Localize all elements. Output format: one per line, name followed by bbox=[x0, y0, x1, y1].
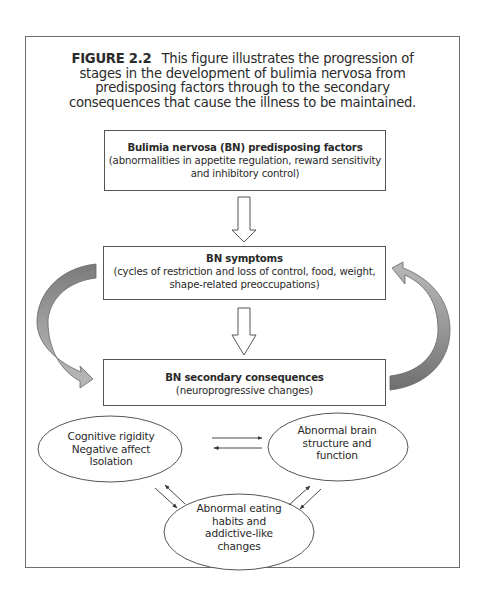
curved-arrow-right bbox=[390, 262, 450, 390]
ellipse-line: habits and bbox=[175, 515, 303, 528]
box-title: Bulimia nervosa (BN) predisposing factor… bbox=[105, 141, 385, 154]
down-arrow-2 bbox=[232, 308, 256, 355]
box-detail: (cycles of restriction and loss of contr… bbox=[113, 266, 375, 290]
ellipse-line: Isolation bbox=[52, 455, 170, 468]
box-title: BN symptoms bbox=[104, 252, 385, 265]
down-arrow-1 bbox=[232, 197, 256, 242]
ellipse-line: addictive-like bbox=[175, 527, 303, 540]
secondary-consequences-box: BN secondary consequences (neuroprogress… bbox=[103, 359, 386, 406]
ellipse-line: Abnormal eating bbox=[175, 502, 303, 515]
ellipse-line: Abnormal brain bbox=[277, 424, 397, 437]
predisposing-factors-box: Bulimia nervosa (BN) predisposing factor… bbox=[104, 130, 386, 191]
box-detail: (abnormalities in appetite regulation, r… bbox=[109, 155, 381, 179]
curved-arrow-left bbox=[37, 264, 96, 388]
ellipse-line: function bbox=[277, 449, 397, 462]
ellipse-line: Cognitive rigidity bbox=[52, 430, 170, 443]
ellipse-brain-text: Abnormal brain structure and function bbox=[277, 424, 397, 462]
ellipse-line: structure and bbox=[277, 437, 397, 450]
ellipse-eating-text: Abnormal eating habits and addictive-lik… bbox=[175, 502, 303, 552]
symptoms-box: BN symptoms (cycles of restriction and l… bbox=[103, 246, 386, 300]
ellipse-line: Negative affect bbox=[52, 443, 170, 456]
box-detail: (neuroprogressive changes) bbox=[176, 385, 313, 396]
box-title: BN secondary consequences bbox=[104, 371, 385, 384]
ellipse-cognitive-text: Cognitive rigidity Negative affect Isola… bbox=[52, 430, 170, 468]
ellipse-line: changes bbox=[175, 540, 303, 553]
